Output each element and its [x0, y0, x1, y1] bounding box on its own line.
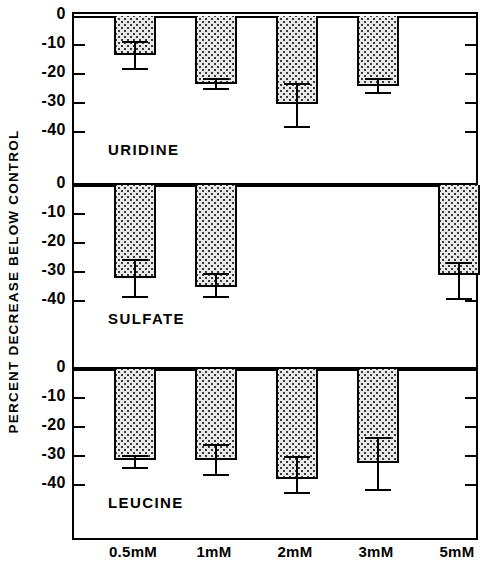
error-cap-bottom	[203, 474, 229, 476]
y-tick-left-10	[74, 397, 85, 399]
x-tick-label-0.5mM: 0.5mM	[109, 543, 157, 560]
y-tick-label-sulfate-20: -20	[41, 232, 66, 250]
y-tick-label-leucine-40: -40	[41, 474, 66, 492]
error-stem	[215, 444, 217, 476]
error-stem	[377, 437, 379, 491]
y-tick-label-leucine-0: 0	[57, 358, 66, 376]
y-tick-right-10	[465, 397, 476, 399]
bar-leucine-0.5mM	[114, 369, 156, 460]
x-tick-label-3mM: 3mM	[358, 543, 393, 560]
y-tick-label-sulfate-10: -10	[41, 203, 66, 221]
panel-leucine: LEUCINE	[74, 14, 476, 542]
x-tick-label-1mM: 1mM	[196, 543, 231, 560]
error-bar-leucine-2mM	[276, 456, 318, 494]
error-stem	[296, 456, 298, 494]
y-tick-left-30	[74, 455, 85, 457]
y-tick-label-uridine-30: -30	[41, 92, 66, 110]
x-tick-label-2mM: 2mM	[277, 543, 312, 560]
y-tick-label-sulfate-40: -40	[41, 290, 66, 308]
error-cap-bottom	[284, 492, 310, 494]
y-tick-label-sulfate-0: 0	[57, 174, 66, 192]
y-tick-right-20	[465, 426, 476, 428]
y-tick-label-uridine-20: -20	[41, 63, 66, 81]
error-cap-bottom	[122, 467, 148, 469]
error-bar-leucine-1mM	[195, 444, 237, 476]
y-tick-left-40	[74, 484, 85, 486]
x-tick-label-5mM: 5mM	[439, 543, 474, 560]
error-bar-leucine-3mM	[357, 437, 399, 491]
error-bar-leucine-0.5mM	[114, 455, 156, 470]
plot-frame: URIDINESULFATELEUCINE	[72, 12, 478, 540]
y-tick-label-leucine-30: -30	[41, 445, 66, 463]
y-tick-right-40	[465, 484, 476, 486]
y-tick-label-uridine-10: -10	[41, 34, 66, 52]
y-tick-label-leucine-10: -10	[41, 387, 66, 405]
y-tick-label-sulfate-30: -30	[41, 261, 66, 279]
error-cap-bottom	[365, 489, 391, 491]
y-tick-right-30	[465, 455, 476, 457]
bar-chart-figure: PERCENT DECREASE BELOW CONTROL URIDINESU…	[0, 0, 495, 563]
y-axis-title: PERCENT DECREASE BELOW CONTROL	[0, 0, 26, 563]
y-tick-label-uridine-0: 0	[57, 5, 66, 23]
panel-label-leucine: LEUCINE	[108, 494, 184, 511]
y-tick-label-leucine-20: -20	[41, 416, 66, 434]
y-tick-label-uridine-40: -40	[41, 121, 66, 139]
y-tick-left-20	[74, 426, 85, 428]
